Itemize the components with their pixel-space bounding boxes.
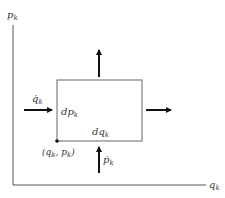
dq-label: dqk xyxy=(92,126,109,139)
corner-point-label: (qk, pk) xyxy=(42,147,75,159)
q-dot-label: q̇k xyxy=(32,93,43,106)
y-axis-label: pk xyxy=(7,9,18,22)
x-axis-label: qk xyxy=(209,179,220,192)
corner-point xyxy=(55,139,59,143)
dp-label: dpk xyxy=(61,106,78,119)
phase-space-diagram: pk qk dpk dqk (qk, pk) q̇k ṗk xyxy=(0,0,225,198)
p-dot-label: ṗk xyxy=(103,154,114,167)
